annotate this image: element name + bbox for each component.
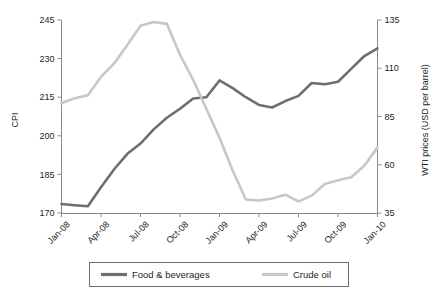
right-tick-label: 85 — [385, 112, 395, 122]
left-tick-label: 200 — [39, 131, 54, 141]
left-tick-label: 170 — [39, 208, 54, 218]
x-tick-label: Oct-08 — [164, 219, 190, 245]
x-tick-label: Jan-08 — [45, 219, 72, 246]
right-tick-label: 35 — [385, 208, 395, 218]
x-tick-label: Oct-09 — [322, 219, 348, 245]
left-tick-label: 230 — [39, 54, 54, 64]
chart-figure: 170185200215230245 CPI 356085110135 WTI … — [0, 0, 437, 298]
x-tick-label: Jul-08 — [127, 219, 151, 243]
left-tick-label: 215 — [39, 92, 54, 102]
x-tick-label: Jan-10 — [361, 219, 388, 246]
legend-label-1: Crude oil — [293, 269, 331, 280]
right-axis-title: WTI prices (USD per barrel) — [420, 64, 430, 176]
left-tick-label: 245 — [39, 15, 54, 25]
left-axis-ticks: 170185200215230245 — [39, 15, 61, 218]
axis-right: 356085110135 WTI prices (USD per barrel) — [378, 15, 431, 218]
series-lines — [62, 22, 378, 206]
x-tick-label: Apr-08 — [85, 219, 111, 245]
right-tick-label: 135 — [385, 15, 400, 25]
axis-x: Jan-08Apr-08Jul-08Oct-08Jan-09Apr-09Jul-… — [45, 213, 388, 246]
x-axis-tick-labels: Jan-08Apr-08Jul-08Oct-08Jan-09Apr-09Jul-… — [45, 219, 388, 246]
axis-left: 170185200215230245 CPI — [10, 15, 62, 218]
dual-axis-line-chart: 170185200215230245 CPI 356085110135 WTI … — [0, 0, 437, 298]
right-axis-ticks: 356085110135 — [378, 15, 400, 218]
x-tick-label: Jul-09 — [285, 219, 309, 243]
x-tick-label: Apr-09 — [243, 219, 269, 245]
left-tick-label: 185 — [39, 170, 54, 180]
right-tick-label: 110 — [385, 63, 399, 73]
chart-legend: Food & beveragesCrude oil — [90, 263, 349, 287]
legend-label-0: Food & beverages — [132, 269, 210, 280]
left-axis-title: CPI — [10, 112, 20, 127]
right-tick-label: 60 — [385, 160, 395, 170]
x-tick-label: Jan-09 — [203, 219, 230, 246]
